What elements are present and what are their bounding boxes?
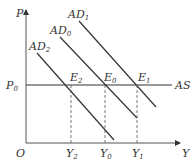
ad2-line <box>37 53 114 140</box>
origin-label: O <box>16 147 25 160</box>
ad2-label: AD2 <box>28 40 51 54</box>
ad1-line <box>79 21 156 107</box>
y1-label: Y1 <box>132 147 144 161</box>
e1-label: E1 <box>137 71 151 85</box>
x-axis-label: Y <box>182 147 191 160</box>
y0-label: Y0 <box>100 147 112 161</box>
e0-label: E0 <box>103 71 117 85</box>
e2-label: E2 <box>69 71 83 85</box>
y-axis-label: P <box>15 7 24 20</box>
ad-as-diagram: P Y O P0 AS AD2 AD0 AD1 E2 E0 E1 Y2 Y0 Y… <box>0 0 196 165</box>
ad1-label: AD1 <box>67 8 89 22</box>
ad0-label: AD0 <box>49 24 72 38</box>
y2-label: Y2 <box>66 147 78 161</box>
as-label: AS <box>174 79 191 92</box>
p0-label: P0 <box>5 79 18 93</box>
